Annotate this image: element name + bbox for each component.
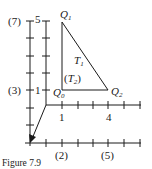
horizontal-axis-label-4: 4: [106, 111, 112, 123]
point-label-q0: Q0: [53, 86, 65, 100]
inner-axis-label-mid: 1: [35, 84, 41, 96]
inner-axis-label-top: 5: [35, 13, 41, 25]
point-label-q2: Q2: [111, 85, 123, 99]
point-label-q1: Q1: [60, 8, 71, 22]
bottom-axis-label-5: (5): [101, 149, 114, 162]
bottom-axis-label-2: (2): [55, 149, 68, 162]
arrowhead-icon: [29, 134, 36, 143]
region-label-t2: (T2): [64, 72, 81, 86]
left-axis-label-mid: (3): [8, 84, 21, 97]
projection-arrow: [32, 105, 46, 139]
figure-caption: Figure 7.9: [2, 158, 41, 168]
figure-7-9-diagram: (7) (3) 5 1 1 4 (2) (5) Q1 Q0 Q2 T1 (T2)…: [0, 0, 152, 169]
left-axis-label-top: (7): [8, 15, 21, 28]
region-label-t1: T1: [74, 54, 84, 68]
horizontal-axis-label-1: 1: [59, 111, 65, 123]
